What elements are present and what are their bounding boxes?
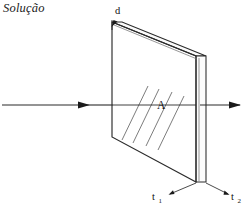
- hatch-line: [122, 86, 148, 140]
- incoming-ray-group: [2, 102, 113, 109]
- hatch-line: [133, 89, 159, 143]
- t2-leader-arrow-icon: [224, 191, 230, 195]
- t2-annotation: t 2: [206, 183, 242, 205]
- area-label: A: [157, 99, 166, 111]
- t1-label-subscript: 1: [159, 197, 163, 205]
- glass-hatch-lines: [122, 86, 184, 150]
- t2-label: t: [231, 191, 234, 202]
- slab-front-face: [112, 22, 196, 182]
- t2-label-subscript: 2: [238, 197, 242, 205]
- arrow-right-icon: [78, 102, 90, 109]
- slab-right-face: [196, 56, 206, 182]
- slab-top-inner-edge: [114, 25, 197, 59]
- t1-label: t: [152, 191, 155, 202]
- thickness-label: d: [115, 5, 121, 16]
- physics-figure-root: Solução: [0, 0, 246, 208]
- t1-leader-arrow-icon: [169, 190, 175, 195]
- t1-annotation: t 1: [152, 183, 196, 205]
- arrow-right-icon: [229, 102, 241, 109]
- t1-leader-line: [170, 183, 196, 194]
- optics-slab-diagram: d A t 1 t 2: [0, 0, 246, 208]
